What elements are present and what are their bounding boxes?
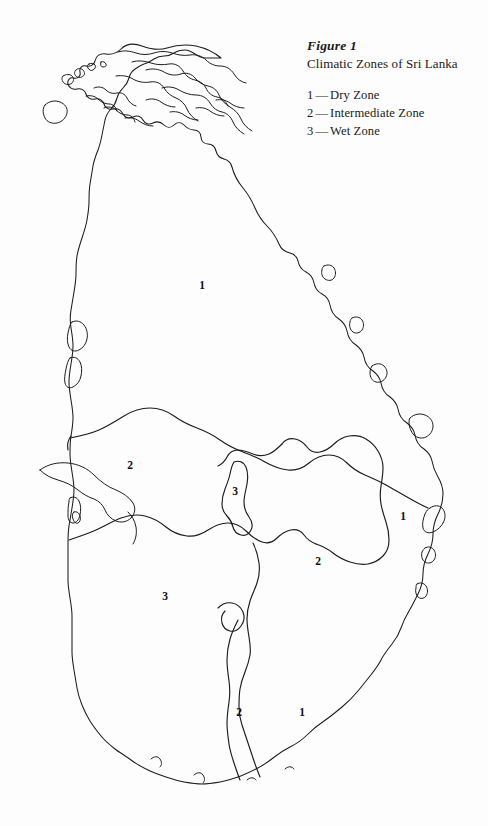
north-lagoon-inner-edge bbox=[162, 87, 244, 134]
legend-dash-2: — bbox=[313, 106, 330, 120]
zone-boundary-north-intermediate bbox=[70, 408, 428, 508]
mannar-causeway bbox=[128, 512, 136, 544]
east-inlet-c bbox=[370, 364, 387, 383]
legend-label-intermediate-zone: Intermediate Zone bbox=[330, 106, 424, 120]
figure-page: 1 2 3 1 2 3 2 1 Figure 1 Climatic Zones … bbox=[0, 0, 488, 826]
south-notch-c bbox=[247, 778, 256, 780]
island-small-c bbox=[87, 63, 95, 70]
coastline-main bbox=[68, 44, 443, 784]
legend-dash-1: — bbox=[313, 88, 330, 102]
zone-label-1-southeast: 1 bbox=[299, 706, 305, 718]
zone-boundary-wet-east-arm bbox=[239, 543, 260, 777]
mannar-island bbox=[40, 463, 135, 522]
zone-enclave-wet-small bbox=[222, 461, 252, 535]
zone-label-1-north: 1 bbox=[199, 279, 205, 291]
trincomalee-bay bbox=[409, 414, 433, 438]
island-delft bbox=[43, 101, 67, 123]
legend-item-wet: 3—Wet Zone bbox=[307, 123, 482, 141]
zone-label-2-northwest: 2 bbox=[127, 459, 133, 471]
east-inlet-d bbox=[350, 317, 364, 333]
north-inlet-d bbox=[125, 118, 153, 126]
north-inner-lagoon bbox=[132, 61, 228, 106]
figure-title: Climatic Zones of Sri Lanka bbox=[307, 56, 482, 73]
kalpitiya-spit bbox=[65, 357, 82, 388]
north-inlet-e bbox=[146, 99, 175, 107]
elephant-pass-channel bbox=[146, 69, 252, 131]
north-inlet-f bbox=[170, 112, 198, 120]
zone-label-3-enclave: 3 bbox=[232, 485, 238, 497]
zone-boundary-south-strip-west bbox=[227, 620, 240, 780]
zone-boundary-intermediate-wet bbox=[69, 515, 316, 544]
island-small-d bbox=[101, 62, 107, 67]
figure-number: Figure 1 bbox=[307, 38, 482, 55]
legend-item-intermediate: 2—Intermediate Zone bbox=[307, 105, 482, 123]
south-notch-d bbox=[285, 767, 294, 769]
legend-label-dry-zone: Dry Zone bbox=[330, 88, 379, 102]
south-notch-b bbox=[194, 773, 205, 783]
puttalam-lagoon-outer bbox=[67, 321, 87, 351]
figure-caption: Figure 1 Climatic Zones of Sri Lanka 1—D… bbox=[307, 38, 482, 140]
south-notch-a bbox=[151, 757, 162, 767]
legend: 1—Dry Zone 2—Intermediate Zone 3—Wet Zon… bbox=[307, 87, 482, 141]
east-lagoon-small-a bbox=[422, 547, 436, 563]
zone-label-1-east: 1 bbox=[400, 510, 406, 522]
east-inlet-e bbox=[322, 265, 336, 280]
legend-dash-3: — bbox=[313, 124, 330, 138]
zone-label-2-central-east: 2 bbox=[315, 555, 321, 567]
zone-boundary-south-gap bbox=[218, 603, 244, 632]
legend-label-wet-zone: Wet Zone bbox=[330, 124, 380, 138]
north-peninsula-south-shore bbox=[116, 76, 198, 121]
zone-label-3-southwest: 3 bbox=[162, 590, 168, 602]
legend-item-dry: 1—Dry Zone bbox=[307, 87, 482, 105]
zone-boundary-east-lobe bbox=[282, 436, 389, 565]
zone-label-2-south: 2 bbox=[236, 706, 242, 718]
